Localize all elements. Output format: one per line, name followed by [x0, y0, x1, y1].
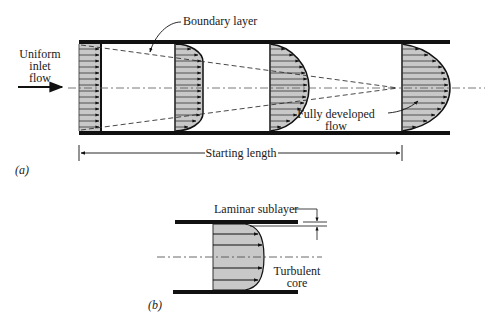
inlet-label-line3: flow — [29, 71, 51, 85]
parabolic-profile — [402, 44, 450, 131]
fully-developed-label-line2: flow — [325, 119, 347, 133]
pipe-b-bottom-wall — [173, 290, 298, 294]
turbulent-core-label-line2: core — [287, 276, 308, 290]
pipe-b-top-wall — [175, 220, 298, 224]
starting-length-label: Starting length — [206, 146, 277, 160]
part-b: Laminar sublayer Turbulent core (b) — [148, 202, 327, 312]
laminar-sublayer-label: Laminar sublayer — [214, 202, 298, 216]
developing-profile-1 — [175, 44, 203, 131]
pipe-flow-diagram: Uniform inlet flow Boundary layer Fully … — [0, 0, 499, 327]
pipe-top-wall — [79, 40, 450, 44]
part-a: Uniform inlet flow Boundary layer Fully … — [15, 14, 485, 177]
part-b-tag: (b) — [148, 298, 162, 312]
pipe-bottom-wall — [79, 131, 450, 135]
uniform-profile — [79, 42, 101, 133]
part-a-tag: (a) — [15, 163, 29, 177]
boundary-layer-label: Boundary layer — [183, 14, 257, 28]
